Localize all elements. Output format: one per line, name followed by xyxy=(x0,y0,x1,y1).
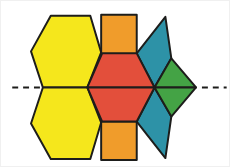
yellow-hexagon-top xyxy=(31,16,101,88)
pattern-block-figure-svg xyxy=(1,1,229,166)
pattern-block-figure xyxy=(0,0,230,167)
orange-square-top xyxy=(101,15,137,54)
orange-square-bottom xyxy=(101,122,137,161)
yellow-hexagon-bottom xyxy=(31,87,101,159)
